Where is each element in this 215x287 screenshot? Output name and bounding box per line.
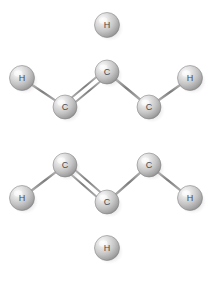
atom-c-lower-left[interactable]: C — [53, 153, 77, 177]
molecule-diagram: HCHCHCCHCHCH — [0, 0, 215, 287]
atom-h-lower-right[interactable]: H — [178, 186, 203, 211]
atom-shadow-layer — [12, 16, 207, 265]
atom-c-lower-right[interactable]: C — [137, 153, 161, 177]
single-bond — [31, 171, 57, 191]
single-bond — [115, 172, 141, 195]
molecule-figure: HCHCHCCHCHCH — [0, 0, 215, 287]
double-bond — [146, 118, 152, 155]
atom-c-upper-right[interactable]: C — [137, 95, 161, 119]
atom-c-top[interactable]: C — [95, 60, 119, 84]
atom-h-bottom[interactable]: H — [95, 236, 120, 261]
single-bond — [158, 84, 181, 101]
atom-h-upper-right[interactable]: H — [178, 66, 203, 91]
atom-h-upper-left[interactable]: H — [10, 66, 35, 91]
atom-c-bottom[interactable]: C — [95, 190, 119, 214]
atom-c-upper-left[interactable]: C — [53, 95, 77, 119]
atom-h-top[interactable]: H — [95, 13, 120, 38]
double-bond — [71, 76, 101, 102]
atom-h-lower-left[interactable]: H — [10, 186, 35, 211]
